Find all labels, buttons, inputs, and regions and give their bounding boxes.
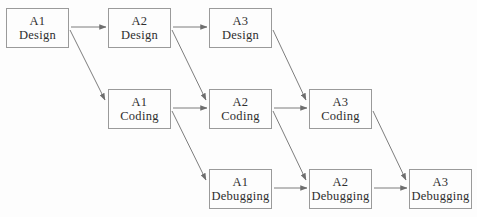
arrow-a3-design-to-a3-coding <box>273 30 306 100</box>
node-a1-debugging: A1Debugging <box>209 169 272 209</box>
node-activity-label: A1 <box>233 175 249 189</box>
node-activity-label: A3 <box>233 14 249 28</box>
diagram-canvas: A1DesignA2DesignA3DesignA1CodingA2Coding… <box>0 0 477 217</box>
node-a1-coding: A1Coding <box>108 89 171 129</box>
node-phase-label: Debugging <box>311 189 369 203</box>
arrow-a1-coding-to-a1-debugging <box>172 111 206 180</box>
node-a2-coding: A2Coding <box>209 89 272 129</box>
node-phase-label: Coding <box>221 109 260 123</box>
node-a2-debugging: A2Debugging <box>309 169 372 209</box>
node-a3-coding: A3Coding <box>309 89 372 129</box>
node-phase-label: Design <box>19 28 56 42</box>
node-activity-label: A2 <box>333 175 349 189</box>
node-phase-label: Design <box>121 28 158 42</box>
node-a3-design: A3Design <box>209 8 272 48</box>
node-activity-label: A3 <box>433 175 449 189</box>
node-a1-design: A1Design <box>6 8 69 48</box>
node-phase-label: Coding <box>120 109 159 123</box>
node-activity-label: A1 <box>132 95 148 109</box>
node-activity-label: A3 <box>333 95 349 109</box>
node-activity-label: A1 <box>30 14 46 28</box>
node-a2-design: A2Design <box>108 8 171 48</box>
node-a3-debugging: A3Debugging <box>409 169 472 209</box>
arrow-a2-coding-to-a2-debugging <box>273 111 306 180</box>
arrow-a3-coding-to-a3-debugging <box>373 111 406 180</box>
arrow-a2-design-to-a2-coding <box>172 30 206 100</box>
node-activity-label: A2 <box>233 95 249 109</box>
node-activity-label: A2 <box>132 14 148 28</box>
arrow-a1-design-to-a1-coding <box>70 30 105 100</box>
node-phase-label: Coding <box>321 109 360 123</box>
node-phase-label: Design <box>222 28 259 42</box>
node-phase-label: Debugging <box>411 189 469 203</box>
node-phase-label: Debugging <box>211 189 269 203</box>
